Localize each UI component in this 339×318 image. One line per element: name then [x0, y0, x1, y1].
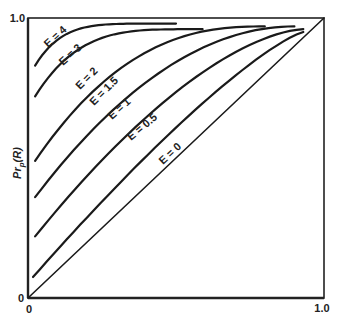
- y-axis-label: Prp(R): [11, 147, 26, 179]
- y-tick-bottom: 0: [18, 292, 24, 304]
- x-tick-left: 0: [26, 303, 32, 315]
- curve-label: E = 1: [105, 95, 132, 121]
- curve-label: E = 2: [73, 65, 100, 92]
- x-tick-right: 1.0: [314, 302, 329, 314]
- curve-label: E = 3: [56, 41, 83, 67]
- chart: E = 4E = 3E = 2E = 1.5E = 1E = 0.5E = 0 …: [0, 0, 339, 318]
- y-tick-top: 1.0: [10, 12, 25, 24]
- curve-label: E = 0.5: [125, 111, 160, 143]
